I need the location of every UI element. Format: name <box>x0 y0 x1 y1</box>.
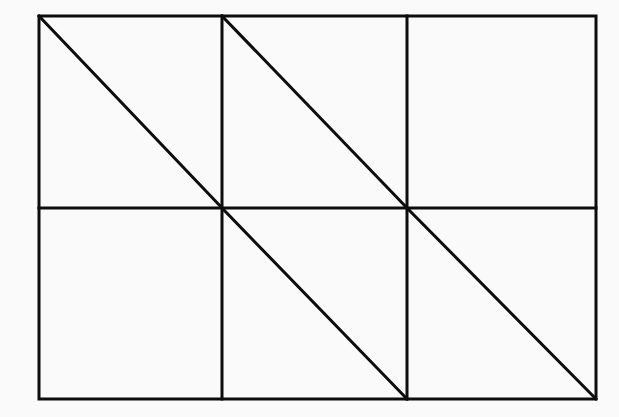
grid-diagram-svg <box>0 0 619 417</box>
diagonal-line <box>39 16 222 208</box>
diagonal-line <box>222 208 407 399</box>
diagonal-line <box>222 16 407 208</box>
diagonal-line <box>407 208 596 399</box>
grid-diagram <box>0 0 619 417</box>
